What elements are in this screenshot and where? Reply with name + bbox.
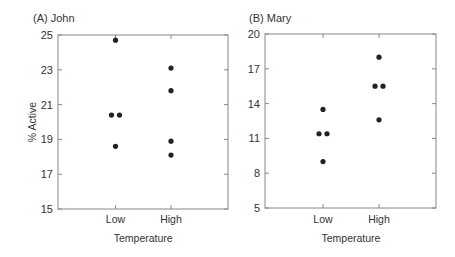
y-axis-label: % Active [26, 102, 38, 142]
data-point [376, 55, 381, 60]
x-axis-label: Temperature [114, 232, 173, 244]
chart-title: (A) John [33, 12, 75, 24]
data-point [168, 139, 173, 144]
plot-frame [58, 35, 228, 209]
figure: (A) John151719212325LowHighTemperature% … [0, 0, 455, 257]
x-tick-label: High [368, 213, 390, 225]
data-point [380, 84, 385, 89]
data-point [168, 88, 173, 93]
chart-john: (A) John151719212325LowHighTemperature% … [26, 12, 228, 244]
data-point [168, 152, 173, 157]
y-tick-label: 17 [41, 168, 53, 180]
y-tick-label: 21 [41, 99, 53, 111]
plot-frame [265, 34, 436, 208]
y-tick-label: 19 [41, 133, 53, 145]
y-tick-label: 11 [249, 132, 260, 144]
data-point [316, 131, 321, 136]
x-tick-label: Low [313, 213, 333, 225]
data-point [320, 107, 325, 112]
y-tick-label: 17 [248, 63, 260, 75]
y-tick-label: 20 [248, 28, 260, 40]
data-point [113, 144, 118, 149]
chart-mary: (B) Mary5811141720LowHighTemperature [248, 12, 436, 244]
x-axis-label: Temperature [322, 232, 381, 244]
data-point [168, 65, 173, 70]
y-tick-label: 14 [248, 98, 260, 110]
y-tick-label: 15 [41, 203, 53, 215]
data-point [109, 112, 114, 117]
data-point [320, 159, 325, 164]
data-point [372, 84, 377, 89]
y-tick-label: 25 [41, 29, 53, 41]
y-tick-label: 23 [41, 64, 53, 76]
data-point [117, 112, 122, 117]
data-point [376, 117, 381, 122]
x-tick-label: High [160, 213, 182, 225]
y-tick-label: 5 [254, 202, 260, 214]
x-tick-label: Low [106, 213, 126, 225]
chart-title: (B) Mary [249, 12, 292, 24]
data-point [324, 131, 329, 136]
y-tick-label: 8 [254, 167, 260, 179]
data-point [113, 38, 118, 43]
